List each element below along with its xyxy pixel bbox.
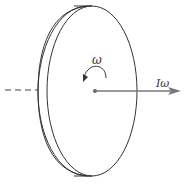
i-omega-label: Iω	[155, 77, 169, 90]
disc-diagram: ω Iω	[0, 0, 189, 183]
omega-label: ω	[92, 53, 102, 67]
